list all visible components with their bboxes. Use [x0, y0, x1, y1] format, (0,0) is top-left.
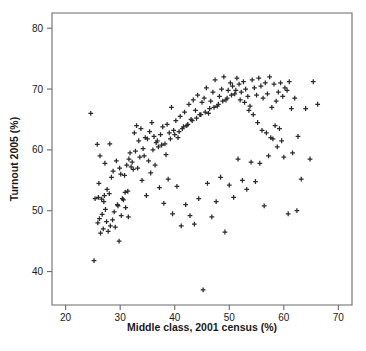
y-tick-label-50: 50 — [32, 205, 44, 216]
x-tick-label-30: 30 — [115, 312, 127, 323]
y-tick-label-60: 60 — [32, 144, 44, 155]
y-tick-label-40: 40 — [32, 266, 44, 277]
x-tick-label-60: 60 — [278, 312, 290, 323]
x-tick-label-70: 70 — [333, 312, 345, 323]
y-axis-title: Turnout 2005 (%) — [8, 117, 20, 201]
y-tick-label-70: 70 — [32, 84, 44, 95]
scatter-plot-figure: 203040506070 4050607080 Middle class, 20… — [0, 0, 366, 351]
x-tick-label-20: 20 — [60, 312, 72, 323]
figure-background — [0, 0, 366, 351]
x-axis-title: Middle class, 2001 census (%) — [127, 321, 277, 333]
y-tick-label-80: 80 — [32, 23, 44, 34]
scatter-plot-canvas: 203040506070 4050607080 Middle class, 20… — [0, 0, 366, 351]
